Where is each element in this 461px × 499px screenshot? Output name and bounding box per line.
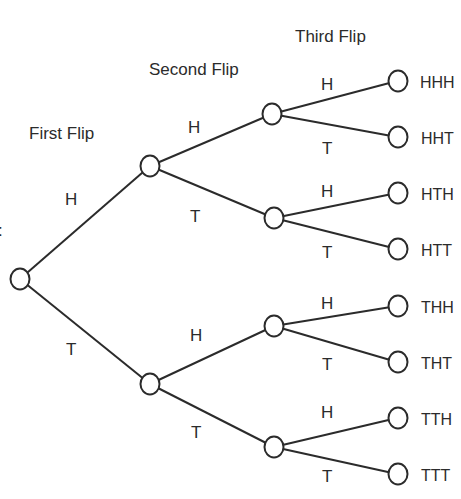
left-edge-mark: :	[0, 221, 3, 240]
leaf-node-htt	[389, 239, 408, 260]
edge-third-hhh	[272, 81, 397, 114]
edge-third-tth	[274, 418, 397, 447]
leaf-node-hhh	[389, 71, 408, 92]
title-third-flip: Third Flip	[295, 27, 366, 46]
edge-third-hth	[274, 193, 397, 218]
edge-first-h	[20, 166, 150, 279]
edge-second-ht	[150, 166, 274, 218]
branch-label-second-th: H	[190, 326, 202, 345]
edge-third-tht	[274, 326, 397, 362]
node-hh	[263, 104, 282, 125]
outcome-htt: HTT	[421, 242, 452, 259]
leaf-node-tht	[389, 352, 408, 373]
title-first-flip: First Flip	[29, 124, 94, 143]
edge-third-hht	[272, 114, 397, 137]
outcome-tth: TTH	[421, 411, 452, 428]
leaf-node-ttt	[389, 464, 408, 485]
outcome-hth: HTH	[421, 186, 454, 203]
edge-second-th	[150, 326, 274, 384]
edge-second-hh	[150, 114, 272, 166]
branch-label-second-tt: T	[191, 423, 201, 442]
node-th	[265, 316, 284, 337]
leaf-node-hht	[389, 127, 408, 148]
branch-label-first-h: H	[65, 190, 77, 209]
edge-third-htt	[274, 218, 397, 249]
outcome-hhh: HHH	[420, 74, 455, 91]
node-t	[141, 374, 160, 395]
edge-third-thh	[274, 306, 397, 326]
leaf-node-hth	[389, 183, 408, 204]
branch-label-third-thh: H	[321, 294, 333, 313]
outcome-thh: THH	[421, 299, 454, 316]
branch-label-third-hhh: H	[321, 75, 333, 94]
root-node	[11, 269, 30, 290]
outcome-tht: THT	[421, 355, 452, 372]
outcome-hht: HHT	[421, 130, 454, 147]
branch-label-third-tht: T	[322, 355, 332, 374]
title-second-flip: Second Flip	[149, 60, 239, 79]
node-h	[141, 156, 160, 177]
branch-label-third-tth: H	[321, 403, 333, 422]
node-ht	[265, 208, 284, 229]
branch-label-second-ht: T	[190, 207, 200, 226]
branch-label-first-t: T	[66, 340, 76, 359]
probability-tree-diagram: First Flip Second Flip Third Flip : H T …	[0, 0, 461, 499]
branch-label-second-hh: H	[188, 118, 200, 137]
edge-third-ttt	[274, 447, 397, 474]
outcome-ttt: TTT	[421, 467, 451, 484]
branch-label-third-ttt: T	[322, 467, 332, 486]
leaf-node-thh	[389, 296, 408, 317]
edge-first-t	[20, 279, 150, 384]
leaf-node-tth	[389, 408, 408, 429]
branch-label-third-htt: T	[322, 243, 332, 262]
edge-second-tt	[150, 384, 274, 447]
branch-label-third-hth: H	[321, 182, 333, 201]
branch-label-third-hht: T	[322, 139, 332, 158]
node-tt	[265, 437, 284, 458]
